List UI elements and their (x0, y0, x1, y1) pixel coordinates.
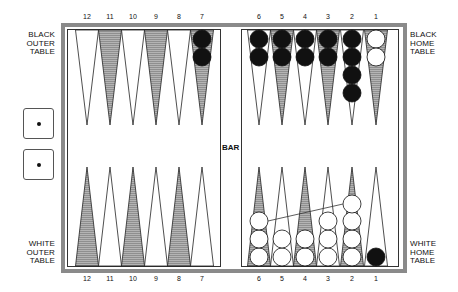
white-checker[interactable] (250, 230, 268, 248)
point-number: 12 (77, 13, 97, 20)
point-number: 5 (272, 13, 292, 20)
point-number: 10 (123, 275, 143, 282)
point-number: 11 (100, 275, 120, 282)
white-checker[interactable] (343, 248, 361, 266)
point-number: 3 (318, 275, 338, 282)
point-number: 6 (249, 13, 269, 20)
white-checker[interactable] (273, 248, 291, 266)
point-number: 8 (169, 275, 189, 282)
point-number: 1 (366, 13, 386, 20)
black-checker[interactable] (193, 48, 211, 66)
point-number: 12 (77, 275, 97, 282)
black-checker[interactable] (273, 30, 291, 48)
black-checker[interactable] (250, 48, 268, 66)
point-number: 5 (272, 275, 292, 282)
white-checker[interactable] (319, 248, 337, 266)
point-number: 8 (169, 13, 189, 20)
white-checker[interactable] (319, 212, 337, 230)
white-checker[interactable] (367, 30, 385, 48)
point-number: 6 (249, 275, 269, 282)
point-number: 1 (366, 275, 386, 282)
white-checker[interactable] (273, 230, 291, 248)
black-checker[interactable] (343, 66, 361, 84)
black-checker[interactable] (367, 248, 385, 266)
point-number: 3 (318, 13, 338, 20)
white-checker[interactable] (296, 248, 314, 266)
white-checker[interactable] (343, 230, 361, 248)
black-home-table-label: BLACK HOME TABLE (410, 31, 437, 57)
white-checker[interactable] (296, 230, 314, 248)
die-2[interactable] (23, 149, 54, 180)
black-checker[interactable] (296, 48, 314, 66)
bar-label: BAR (222, 143, 239, 152)
white-checker[interactable] (319, 230, 337, 248)
white-outer-table-label: WHITE OUTER TABLE (22, 240, 55, 266)
die-pip (37, 163, 41, 167)
black-checker[interactable] (296, 30, 314, 48)
white-checker[interactable] (343, 212, 361, 230)
point-number: 9 (146, 13, 166, 20)
point-number: 7 (192, 13, 212, 20)
point-number: 2 (342, 275, 362, 282)
black-outer-table-label: BLACK OUTER TABLE (22, 31, 55, 57)
point-number: 7 (192, 275, 212, 282)
white-checker[interactable] (367, 48, 385, 66)
white-checker[interactable] (250, 212, 268, 230)
black-checker[interactable] (319, 48, 337, 66)
point-number: 2 (342, 13, 362, 20)
white-checker[interactable] (250, 248, 268, 266)
die-pip (37, 122, 41, 126)
black-checker[interactable] (343, 30, 361, 48)
point-number: 4 (295, 13, 315, 20)
black-checker[interactable] (193, 30, 211, 48)
black-checker[interactable] (343, 48, 361, 66)
white-checker[interactable] (343, 195, 361, 213)
point-number: 9 (146, 275, 166, 282)
point-number: 10 (123, 13, 143, 20)
black-checker[interactable] (273, 48, 291, 66)
black-checker[interactable] (343, 84, 361, 102)
die-1[interactable] (23, 108, 54, 139)
point-number: 4 (295, 275, 315, 282)
point-number: 11 (100, 13, 120, 20)
black-checker[interactable] (319, 30, 337, 48)
black-checker[interactable] (250, 30, 268, 48)
white-home-table-label: WHITE HOME TABLE (410, 240, 436, 266)
